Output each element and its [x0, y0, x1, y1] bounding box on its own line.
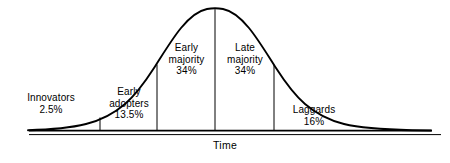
adoption-curve-figure: Innovators 2.5% Early adopters 13.5% Ear… [0, 0, 450, 163]
segment-name-early-majority-line2: majority [158, 54, 215, 66]
segment-name-early-adopters-line2: adopters [101, 98, 157, 110]
segment-percent-innovators: 2.5% [8, 104, 94, 116]
segment-label-early-adopters: Early adopters 13.5% [101, 86, 157, 121]
segment-percent-early-majority: 34% [158, 65, 215, 77]
segment-label-late-majority: Late majority 34% [216, 42, 274, 77]
segment-label-laggards: Laggards 16% [276, 104, 352, 127]
segment-name-innovators: Innovators [8, 92, 94, 104]
segment-percent-early-adopters: 13.5% [101, 109, 157, 121]
segment-name-late-majority-line2: majority [216, 54, 274, 66]
segment-name-laggards: Laggards [276, 104, 352, 116]
segment-name-late-majority-line1: Late [216, 42, 274, 54]
x-axis-label: Time [0, 139, 450, 151]
segment-percent-laggards: 16% [276, 116, 352, 128]
segment-name-early-adopters-line1: Early [101, 86, 157, 98]
segment-name-early-majority-line1: Early [158, 42, 215, 54]
segment-label-innovators: Innovators 2.5% [8, 92, 94, 115]
segment-percent-late-majority: 34% [216, 65, 274, 77]
segment-label-early-majority: Early majority 34% [158, 42, 215, 77]
